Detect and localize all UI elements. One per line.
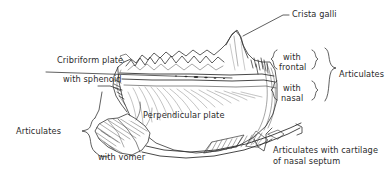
brace-with-frontal-right	[312, 50, 318, 69]
label-articulates-right: Articulates	[339, 69, 384, 79]
brace-articulates-left-top	[95, 92, 102, 118]
label-cribriform-plate: Cribriform plate	[57, 55, 123, 65]
label-with-frontal-line2: frontal	[279, 62, 306, 72]
brace-articulates-left	[82, 118, 95, 152]
brace-articulates-right	[325, 48, 336, 101]
label-with-frontal-line1: with	[283, 52, 301, 62]
label-with-vomer: with vomer	[98, 152, 145, 162]
label-with-nasal-line1: with	[283, 83, 301, 93]
crista-galli-leader	[243, 15, 289, 36]
label-perpendicular-plate: Perpendicular plate	[143, 110, 225, 120]
brace-with-nasal-right	[312, 81, 318, 100]
label-with-sphenoid: with sphenoid	[63, 74, 122, 84]
label-articulates-left: Articulates	[16, 126, 61, 136]
label-with-nasal-line2: nasal	[281, 93, 303, 103]
bone-body	[95, 30, 302, 158]
label-cartilage-line2: of nasal septum	[273, 156, 340, 166]
label-crista-galli: Crista galli	[292, 9, 337, 19]
anatomical-figure: Crista galli Cribriform plate with sphen…	[0, 0, 385, 180]
label-cartilage-line1: Articulates with cartilage	[273, 145, 378, 155]
